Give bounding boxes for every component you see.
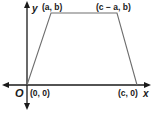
y-axis-up-arrow-icon bbox=[24, 1, 30, 8]
x-axis-label: x bbox=[142, 88, 149, 99]
vertex-label-bottom-right: (c, 0) bbox=[118, 88, 138, 98]
x-axis-left-arrow-icon bbox=[2, 82, 9, 88]
trapezoid-diagram: y (a, b) (c − a, b) O (0, 0) (c, 0) x bbox=[0, 0, 152, 114]
y-axis-label: y bbox=[31, 3, 38, 14]
trapezoid-shape bbox=[27, 13, 137, 85]
vertex-label-top-left: (a, b) bbox=[42, 2, 62, 12]
vertex-label-origin: (0, 0) bbox=[30, 88, 50, 98]
origin-label: O bbox=[15, 87, 24, 99]
vertex-label-top-right: (c − a, b) bbox=[96, 2, 131, 12]
y-axis-down-arrow-icon bbox=[24, 103, 30, 110]
